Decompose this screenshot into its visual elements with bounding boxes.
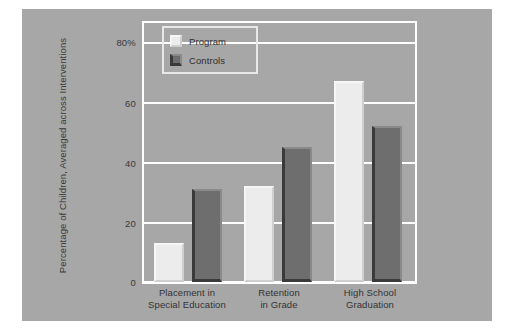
y-tick-80: 80% — [96, 38, 136, 48]
bar-group-graduation — [328, 23, 408, 282]
chart-legend: Program Controls — [162, 26, 258, 74]
legend-item-program[interactable]: Program — [170, 33, 226, 49]
bar-controls-placement[interactable] — [192, 189, 222, 282]
legend-item-controls[interactable]: Controls — [170, 52, 225, 68]
category-label-placement: Placement in Special Education — [138, 287, 236, 310]
controls-swatch-icon — [170, 54, 182, 66]
category-label-placement-line2: Special Education — [138, 299, 236, 311]
bar-program-graduation[interactable] — [334, 81, 364, 282]
category-label-placement-line1: Placement in — [138, 287, 236, 299]
y-tick-0: 0 — [96, 278, 136, 288]
y-tick-40: 40 — [96, 159, 136, 169]
x-axis-category-labels: Placement in Special Education Retention… — [142, 287, 417, 317]
category-label-graduation-line1: High School — [322, 287, 418, 299]
bar-controls-graduation[interactable] — [372, 126, 402, 282]
bar-controls-retention[interactable] — [282, 147, 312, 282]
bar-program-placement[interactable] — [154, 243, 184, 282]
category-label-graduation: High School Graduation — [322, 287, 418, 310]
y-axis-title: Percentage of Children, Averaged across … — [57, 31, 68, 281]
category-label-retention-line1: Retention — [232, 287, 326, 299]
y-tick-20: 20 — [96, 219, 136, 229]
program-swatch-icon — [170, 35, 182, 47]
bar-program-retention[interactable] — [244, 186, 274, 282]
legend-label-controls: Controls — [189, 55, 225, 66]
category-label-retention-line2: in Grade — [232, 299, 326, 311]
category-label-retention: Retention in Grade — [232, 287, 326, 310]
x-axis-baseline — [142, 282, 417, 284]
chart-figure: Percentage of Children, Averaged across … — [0, 0, 513, 335]
y-tick-60: 60 — [96, 99, 136, 109]
y-axis-tick-labels: 80% 60 40 20 0 — [92, 0, 136, 312]
category-label-graduation-line2: Graduation — [322, 299, 418, 311]
legend-label-program: Program — [189, 36, 226, 47]
